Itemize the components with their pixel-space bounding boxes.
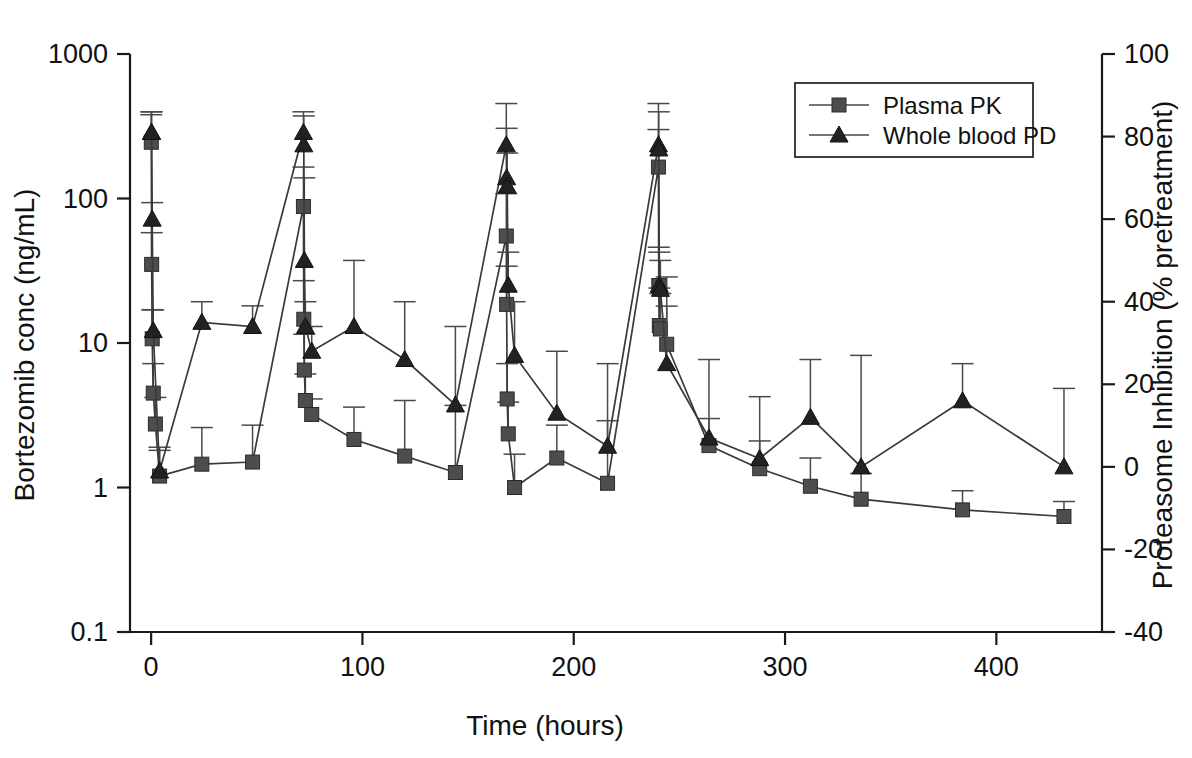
data-point-square: [246, 455, 260, 469]
data-point-square: [803, 479, 817, 493]
y-tick-label: 100: [63, 184, 108, 214]
data-point-square: [500, 392, 514, 406]
data-point-square: [305, 408, 319, 422]
data-point-square: [501, 427, 515, 441]
chart-figure: 0.11101001000-40-20020406080100010020030…: [0, 0, 1192, 758]
legend-label: Plasma PK: [883, 92, 1002, 119]
data-point-square: [297, 363, 311, 377]
data-point-square: [195, 457, 209, 471]
data-point-square: [550, 451, 564, 465]
legend-label: Whole blood PD: [883, 122, 1056, 149]
data-point-square: [499, 229, 513, 243]
x-tick-label: 400: [974, 652, 1019, 682]
data-point-square: [832, 98, 846, 112]
pk-pd-line-chart: 0.11101001000-40-20020406080100010020030…: [0, 0, 1192, 758]
x-tick-label: 200: [551, 652, 596, 682]
y-tick-label: 0.1: [70, 617, 108, 647]
x-tick-label: 100: [340, 652, 385, 682]
data-point-square: [146, 386, 160, 400]
right-y-axis-title: Proteasome Inhibition (% pretreatment): [1147, 101, 1178, 590]
data-point-square: [956, 503, 970, 517]
data-point-square: [145, 257, 159, 271]
y-tick-label: 1: [93, 473, 108, 503]
data-point-square: [601, 476, 615, 490]
y2-tick-label: 0: [1124, 452, 1139, 482]
y-tick-label: 10: [78, 328, 108, 358]
data-point-square: [1057, 509, 1071, 523]
data-point-square: [398, 449, 412, 463]
x-tick-label: 300: [763, 652, 808, 682]
data-point-square: [148, 417, 162, 431]
data-point-square: [854, 492, 868, 506]
y-axis-title: Bortezomib conc (ng/mL): [9, 189, 40, 502]
y2-tick-label: 100: [1124, 39, 1169, 69]
chart-legend: Plasma PKWhole blood PD: [795, 83, 1056, 157]
data-point-square: [653, 322, 667, 336]
x-tick-label: 0: [144, 652, 159, 682]
data-point-square: [508, 481, 522, 495]
data-point-square: [448, 466, 462, 480]
data-point-square: [500, 297, 514, 311]
x-axis-title: Time (hours): [466, 710, 624, 741]
data-point-square: [347, 432, 361, 446]
y-tick-label: 1000: [48, 39, 108, 69]
data-point-square: [298, 394, 312, 408]
y2-tick-label: -40: [1124, 617, 1163, 647]
